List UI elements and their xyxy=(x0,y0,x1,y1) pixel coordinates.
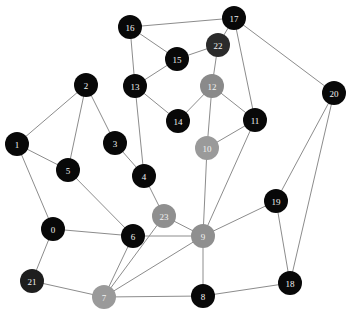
graph-edge xyxy=(53,229,133,236)
graph-edge xyxy=(276,93,334,201)
graph-edge xyxy=(203,201,276,236)
graph-edge xyxy=(104,296,203,297)
graph-edge xyxy=(203,283,290,296)
node-circle[interactable] xyxy=(200,74,224,98)
graph-edge xyxy=(276,201,290,283)
graph-node[interactable]: 22 xyxy=(206,33,230,57)
graph-node[interactable]: 19 xyxy=(264,189,288,213)
graph-node[interactable]: 23 xyxy=(152,204,176,228)
graph-node[interactable]: 15 xyxy=(165,47,189,71)
graph-canvas: 01234567891011121314151617181920212223 xyxy=(0,0,352,317)
node-circle[interactable] xyxy=(191,224,215,248)
node-circle[interactable] xyxy=(132,164,156,188)
graph-edge xyxy=(68,170,133,236)
graph-node[interactable]: 8 xyxy=(191,284,215,308)
node-circle[interactable] xyxy=(20,269,44,293)
node-circle[interactable] xyxy=(278,271,302,295)
node-circle[interactable] xyxy=(152,204,176,228)
graph-visualization: 01234567891011121314151617181920212223 xyxy=(0,0,352,317)
graph-edge xyxy=(234,18,334,93)
node-circle[interactable] xyxy=(166,109,190,133)
graph-node[interactable]: 0 xyxy=(41,217,65,241)
node-circle[interactable] xyxy=(322,81,346,105)
node-circle[interactable] xyxy=(264,189,288,213)
graph-edge xyxy=(130,18,234,27)
graph-node[interactable]: 20 xyxy=(322,81,346,105)
graph-node[interactable]: 6 xyxy=(121,224,145,248)
graph-node[interactable]: 9 xyxy=(191,224,215,248)
graph-edge xyxy=(203,148,207,236)
node-circle[interactable] xyxy=(195,136,219,160)
graph-edge xyxy=(234,18,255,120)
node-circle[interactable] xyxy=(5,132,29,156)
graph-node[interactable]: 18 xyxy=(278,271,302,295)
graph-node[interactable]: 14 xyxy=(166,109,190,133)
node-circle[interactable] xyxy=(121,224,145,248)
node-circle[interactable] xyxy=(123,74,147,98)
graph-node[interactable]: 21 xyxy=(20,269,44,293)
node-circle[interactable] xyxy=(41,217,65,241)
node-circle[interactable] xyxy=(74,73,98,97)
graph-node[interactable]: 10 xyxy=(195,136,219,160)
graph-node[interactable]: 2 xyxy=(74,73,98,97)
node-circle[interactable] xyxy=(118,15,142,39)
graph-node[interactable]: 1 xyxy=(5,132,29,156)
graph-node[interactable]: 11 xyxy=(243,108,267,132)
graph-node[interactable]: 12 xyxy=(200,74,224,98)
graph-node[interactable]: 7 xyxy=(92,285,116,309)
graph-edge xyxy=(290,93,334,283)
node-circle[interactable] xyxy=(56,158,80,182)
graph-node[interactable]: 17 xyxy=(222,6,246,30)
node-circle[interactable] xyxy=(191,284,215,308)
graph-edge xyxy=(17,144,53,229)
graph-node[interactable]: 5 xyxy=(56,158,80,182)
node-circle[interactable] xyxy=(222,6,246,30)
node-circle[interactable] xyxy=(206,33,230,57)
graph-node[interactable]: 13 xyxy=(123,74,147,98)
graph-edge xyxy=(135,86,144,176)
node-circle[interactable] xyxy=(243,108,267,132)
graph-node[interactable]: 4 xyxy=(132,164,156,188)
graph-node[interactable]: 16 xyxy=(118,15,142,39)
node-circle[interactable] xyxy=(92,285,116,309)
graph-node[interactable]: 3 xyxy=(103,131,127,155)
node-circle[interactable] xyxy=(103,131,127,155)
node-circle[interactable] xyxy=(165,47,189,71)
